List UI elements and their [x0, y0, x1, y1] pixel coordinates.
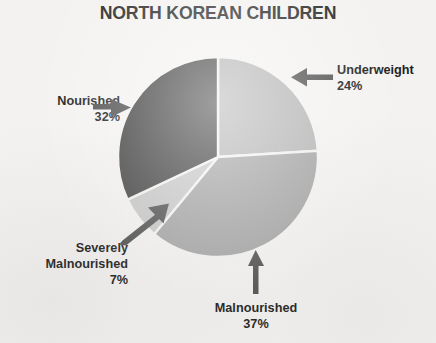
- arrow-severely-icon: [119, 204, 169, 246]
- arrow-nourished-icon: [93, 99, 131, 117]
- arrow-underweight-icon: [291, 68, 333, 87]
- callout-arrows: [0, 0, 436, 343]
- arrow-malnourished-icon: [248, 250, 264, 294]
- pie-chart-figure: NORTH KOREAN CHILDREN Underweight 24%: [0, 0, 436, 343]
